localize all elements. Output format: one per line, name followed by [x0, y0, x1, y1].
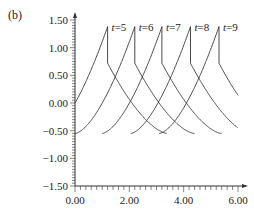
y-tick-label: 0.00	[49, 97, 69, 109]
y-tick-label: −1.00	[43, 152, 69, 164]
y-tick-label: 0.50	[49, 69, 69, 81]
x-tick-label: 4.00	[174, 194, 194, 206]
y-axis-arrow-icon	[73, 12, 77, 18]
curve-label: t=6	[139, 21, 154, 33]
curve-label: t=8	[194, 21, 209, 33]
curve-label: t=7	[166, 21, 181, 33]
curves	[75, 27, 238, 134]
y-tick-label: −0.50	[43, 125, 69, 137]
curve-t-7	[102, 27, 222, 134]
y-tick-label: −1.50	[43, 180, 69, 192]
curve-t-8	[131, 27, 238, 134]
x-tick-label: 6.00	[228, 194, 248, 206]
panel-label: (b)	[8, 8, 22, 22]
curve-label: t=9	[223, 21, 238, 33]
chart: (b) 1.501.000.500.00−0.50−1.00−1.500.002…	[0, 0, 254, 217]
y-tick-label: 1.00	[49, 42, 69, 54]
curve-label: t=5	[112, 21, 127, 33]
axes: 1.501.000.500.00−0.50−1.00−1.500.002.004…	[43, 12, 249, 206]
x-tick-label: 2.00	[120, 194, 140, 206]
x-tick-label: 0.00	[65, 194, 85, 206]
curve-t-6	[75, 27, 195, 134]
x-axis-arrow-icon	[242, 184, 248, 188]
y-tick-label: 1.50	[49, 14, 69, 26]
